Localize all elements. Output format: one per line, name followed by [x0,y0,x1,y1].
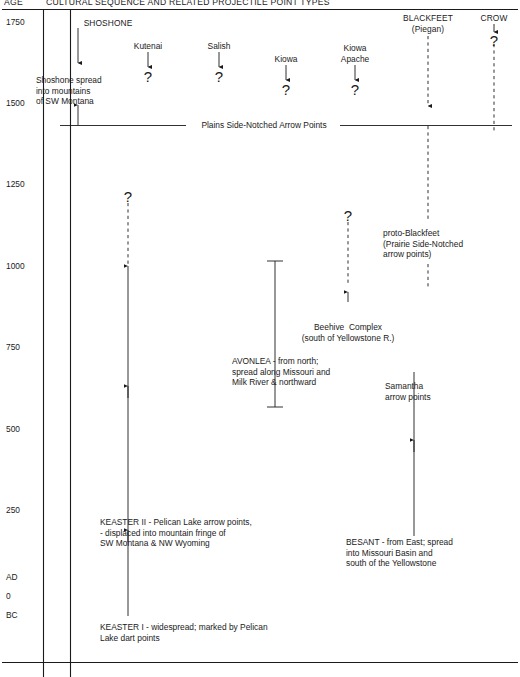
chart-frame [2,10,518,677]
axis-tick-0: 0 [6,592,11,601]
question-mark-salish: ? [215,69,223,84]
annotation-proto-blackfeet: proto-Blackfeet (Prairie Side-Notched ar… [383,228,463,260]
axis-tick-1500: 1500 [6,99,25,108]
axis-tick-250: 250 [6,506,20,515]
annotation-beehive-complex: Beehive Complex (south of Yellowstone R.… [302,322,395,343]
axis-tick-1000: 1000 [6,262,25,271]
label-shoshone: SHOSHONE [84,18,133,29]
cultural-sequence-chart: CULTURAL SEQUENCE AND RELATED PROJECTILE… [0,0,520,677]
question-mark-kiowa: ? [282,82,290,97]
axis-tick-500: 500 [6,425,20,434]
label-kiowa: Kiowa [275,54,298,65]
annotation-besant: BESANT - from East; spread into Missouri… [346,537,453,569]
label-salish: Salish [208,41,231,52]
axis-tick-ad: AD [6,573,18,582]
question-mark-beehive: ? [344,208,352,223]
axis-tick-bc: BC [6,611,18,620]
annotation-shoshone-spread: Shoshone spread into mountains of SW Mon… [36,75,102,107]
plains-side-notched-label: Plains Side-Notched Arrow Points [198,120,329,131]
annotation-keaster-2: KEASTER II - Pelican Lake arrow points, … [100,517,252,549]
annotation-keaster-1: KEASTER I - widespread; marked by Pelica… [100,622,268,643]
axis-tick-750: 750 [6,343,20,352]
axis-tick-1250: 1250 [6,180,25,189]
label-blackfeet: BLACKFEET (Piegan) [403,13,453,34]
label-kiowa-apache: Kiowa Apache [341,43,369,64]
question-mark-crow: ? [490,33,498,48]
question-mark-kutenai: ? [144,69,152,84]
question-mark-keaster: ? [124,189,132,204]
annotation-avonlea: AVONLEA - from north; spread along Misso… [232,356,330,388]
axis-tick-1750: 1750 [6,18,25,27]
question-mark-kiowa-apache: ? [351,82,359,97]
annotation-samantha: Samantha arrow points [385,381,431,402]
label-kutenai: Kutenai [134,41,162,52]
label-crow: CROW [481,13,508,24]
